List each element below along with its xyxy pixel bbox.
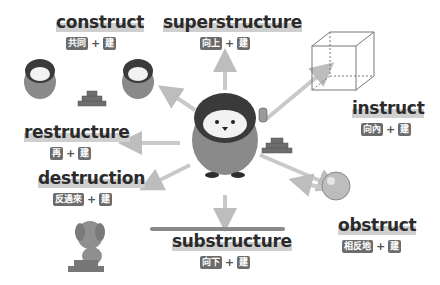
penguin-right-icon (122, 59, 154, 99)
term-restructure-parts: 再+建 (50, 147, 91, 160)
penguin-left-icon (24, 59, 56, 99)
term-construct-parts: 共同+建 (66, 37, 116, 50)
part-prefix: 向上 (200, 37, 222, 50)
plus-sign: + (225, 37, 234, 50)
term-destruction-parts: 反過來+建 (53, 193, 112, 206)
plus-sign: + (386, 123, 395, 136)
term-construct: construct (56, 14, 144, 31)
part-prefix: 再 (50, 147, 63, 160)
arrow-up-left (168, 92, 195, 110)
center-penguin-icon (192, 93, 267, 178)
part-root: 建 (398, 123, 411, 136)
plus-sign: + (225, 256, 234, 269)
part-prefix: 共同 (66, 37, 88, 50)
term-obstruct: obstruct (338, 217, 416, 234)
arrow-to-ball (260, 155, 330, 185)
term-substructure: substructure (172, 233, 292, 250)
part-root: 建 (237, 37, 250, 50)
term-destruction: destruction (38, 170, 145, 187)
cube-icon (312, 32, 374, 90)
term-instruct: instruct (352, 100, 424, 117)
brick-pile-icon (262, 138, 292, 153)
part-root: 建 (237, 256, 250, 269)
part-root: 建 (78, 147, 91, 160)
term-substructure-parts: 向下+建 (200, 256, 250, 269)
part-prefix: 反過來 (53, 193, 84, 206)
part-root: 建 (103, 37, 116, 50)
plus-sign: + (66, 147, 75, 160)
part-root: 建 (388, 240, 401, 253)
ball-icon (322, 172, 350, 200)
dog-icon (68, 221, 105, 272)
term-instruct-parts: 向內+建 (361, 123, 411, 136)
part-root: 建 (99, 193, 112, 206)
plus-sign: + (91, 37, 100, 50)
plus-sign: + (87, 193, 96, 206)
term-superstructure: superstructure (163, 14, 302, 31)
plus-sign: + (376, 240, 385, 253)
term-restructure: restructure (24, 124, 130, 141)
part-prefix: 相反地 (342, 240, 373, 253)
arrow-to-cube (265, 70, 325, 120)
term-superstructure-parts: 向上+建 (200, 37, 250, 50)
part-prefix: 向下 (200, 256, 222, 269)
small-brick-pile-icon (78, 91, 106, 106)
arrow-down-left (150, 165, 190, 185)
term-obstruct-parts: 相反地+建 (342, 240, 401, 253)
part-prefix: 向內 (361, 123, 383, 136)
